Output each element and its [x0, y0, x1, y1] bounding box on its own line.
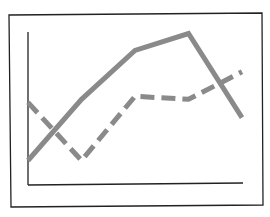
- line-chart-icon: [0, 0, 270, 217]
- chart-svg: [0, 0, 270, 217]
- outer-frame: [9, 13, 263, 207]
